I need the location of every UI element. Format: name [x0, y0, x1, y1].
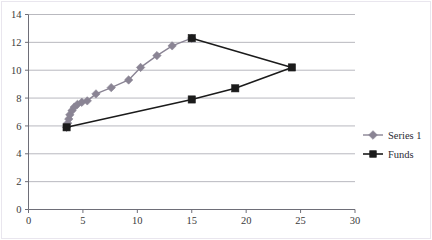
- legend-entry-series-1[interactable]: Series 1: [363, 130, 422, 141]
- line-chart: 02468101214 051015202530 Series 1Funds: [0, 0, 432, 240]
- data-point-marker: [369, 131, 378, 140]
- x-axis-tick-labels: 051015202530: [26, 215, 360, 226]
- x-axis-label: 10: [132, 215, 143, 226]
- y-axis-label: 12: [11, 37, 22, 48]
- y-axis-label: 0: [16, 204, 21, 215]
- x-axis-tick-marks: [29, 210, 356, 214]
- legend-entry-funds[interactable]: Funds: [363, 149, 414, 160]
- y-axis-label: 14: [11, 9, 22, 20]
- x-axis-label: 0: [26, 215, 31, 226]
- chart-container: 02468101214 051015202530 Series 1Funds: [0, 0, 432, 240]
- x-axis-label: 30: [350, 215, 361, 226]
- series-funds: [63, 35, 295, 131]
- y-axis-label: 8: [16, 93, 21, 104]
- chart-legend: Series 1Funds: [363, 130, 422, 160]
- data-point-marker: [188, 35, 195, 42]
- legend-label: Series 1: [388, 130, 422, 141]
- y-axis-label: 10: [11, 65, 22, 76]
- x-axis-label: 15: [187, 215, 198, 226]
- data-point-marker: [370, 151, 377, 158]
- y-axis-tick-labels: 02468101214: [11, 9, 22, 215]
- data-point-marker: [288, 64, 295, 71]
- data-point-marker: [63, 124, 70, 131]
- y-axis-label: 6: [16, 121, 21, 132]
- series-line: [67, 38, 292, 127]
- legend-label: Funds: [388, 149, 414, 160]
- y-axis-label: 2: [16, 176, 21, 187]
- x-axis-label: 25: [295, 215, 306, 226]
- series-series-1: [62, 34, 196, 132]
- y-axis-tick-marks: [25, 15, 29, 210]
- data-point-marker: [107, 83, 115, 91]
- data-series-layer: [62, 34, 295, 132]
- x-axis-label: 20: [241, 215, 252, 226]
- data-point-marker: [188, 96, 195, 103]
- data-point-marker: [232, 85, 239, 92]
- y-axis-label: 4: [16, 148, 22, 159]
- axes-group: [29, 15, 356, 210]
- data-point-marker: [168, 42, 176, 50]
- x-axis-label: 5: [80, 215, 85, 226]
